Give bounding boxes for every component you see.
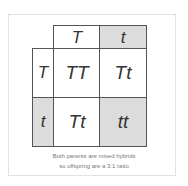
top-allele-recessive: t xyxy=(99,25,147,50)
caption-line-1: Both parents are mixed hybrids xyxy=(40,151,148,161)
side-allele-dominant: T xyxy=(32,48,54,98)
cell-Tt-bottom: Tt xyxy=(53,97,101,147)
cell-Tt-top: Tt xyxy=(99,48,147,98)
side-allele-recessive: t xyxy=(32,97,54,147)
top-allele-dominant: T xyxy=(53,25,101,50)
cell-TT: TT xyxy=(53,48,101,98)
cell-tt: tt xyxy=(99,97,147,147)
caption-line-2: so offspring are a 3:1 ratio xyxy=(40,161,148,171)
